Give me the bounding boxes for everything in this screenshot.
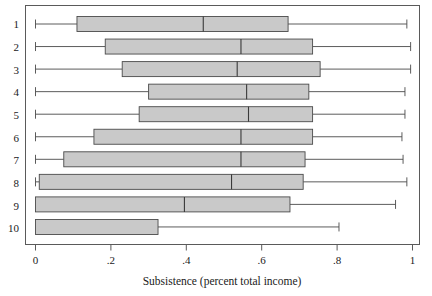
boxplot-figure: 0 .2 .4 .6 .8 1 1 2 3 4 5 6 7 8 9 10 Sub… (0, 0, 432, 296)
y-tick-label-3: 3 (14, 64, 20, 76)
x-tick-label-5: 1 (410, 254, 416, 266)
y-tick-label-7: 7 (14, 154, 20, 166)
box-plot-row (36, 17, 407, 32)
box-plot-row (36, 62, 411, 77)
boxplot-series (36, 17, 411, 235)
y-tick-label-1: 1 (14, 18, 20, 30)
y-tick-label-10: 10 (8, 222, 20, 234)
y-tick-label-5: 5 (14, 109, 20, 121)
box-plot-row (36, 219, 339, 234)
x-tick-label-2: .4 (182, 254, 191, 266)
box-plot-row (36, 107, 405, 122)
box-plot-row (36, 174, 407, 189)
x-axis-ticks (36, 245, 413, 251)
box-rect (64, 152, 305, 167)
y-tick-label-4: 4 (14, 86, 20, 98)
box-rect (77, 17, 288, 32)
box-rect (36, 219, 159, 234)
box-rect (122, 62, 320, 77)
x-tick-label-1: .2 (107, 254, 115, 266)
x-tick-label-0: 0 (33, 254, 39, 266)
box-rect (94, 129, 313, 144)
box-plot-row (36, 84, 405, 99)
box-rect (139, 107, 312, 122)
box-rect (36, 197, 290, 212)
box-plot-row (36, 197, 396, 212)
x-tick-label-3: .6 (258, 254, 267, 266)
box-plot-row (36, 152, 404, 167)
box-rect (39, 174, 303, 189)
box-rect (105, 39, 312, 54)
box-rect (149, 84, 309, 99)
y-tick-label-6: 6 (14, 132, 20, 144)
x-tick-label-4: .8 (333, 254, 342, 266)
y-tick-label-8: 8 (14, 177, 20, 189)
box-plot-row (36, 39, 411, 54)
y-tick-label-2: 2 (14, 41, 20, 53)
y-tick-label-9: 9 (14, 200, 20, 212)
box-plot-row (36, 129, 402, 144)
x-axis-title: Subsistence (percent total income) (143, 275, 302, 288)
chart-canvas: 0 .2 .4 .6 .8 1 1 2 3 4 5 6 7 8 9 10 Sub… (0, 0, 432, 296)
